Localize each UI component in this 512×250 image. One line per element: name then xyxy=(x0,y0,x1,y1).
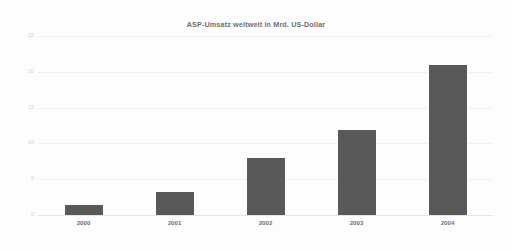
x-tick-label-2000: 2000 xyxy=(54,220,114,226)
chart-figure: ASP-Umsatz weltweit in Mrd. US-Dollar 05… xyxy=(0,0,512,250)
x-tick-label-2004: 2004 xyxy=(418,220,478,226)
bar-2003 xyxy=(338,130,376,215)
y-tick-label: 10 xyxy=(12,140,34,145)
bar-2002 xyxy=(247,158,285,215)
axis-baseline xyxy=(38,215,493,216)
y-tick-label: 0 xyxy=(12,212,34,217)
x-tick-label-2001: 2001 xyxy=(145,220,205,226)
gridline xyxy=(38,143,493,144)
y-tick-label: 5 xyxy=(12,176,34,181)
x-tick-label-2002: 2002 xyxy=(236,220,296,226)
chart-title: ASP-Umsatz weltweit in Mrd. US-Dollar xyxy=(0,20,512,29)
bar-2000 xyxy=(65,205,103,215)
plot-area xyxy=(38,36,493,215)
bar-2004 xyxy=(429,65,467,215)
y-tick-label: 25 xyxy=(12,33,34,38)
gridline xyxy=(38,72,493,73)
y-tick-label: 15 xyxy=(12,105,34,110)
gridline xyxy=(38,36,493,37)
x-axis: 20002001200220032004 xyxy=(38,220,493,232)
gridline xyxy=(38,108,493,109)
y-tick-label: 20 xyxy=(12,69,34,74)
bar-2001 xyxy=(156,192,194,215)
x-tick-label-2003: 2003 xyxy=(327,220,387,226)
y-axis: 0510152025 xyxy=(8,36,34,215)
